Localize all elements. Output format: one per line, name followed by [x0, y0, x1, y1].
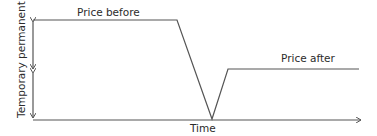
time-axis-label: Time [189, 122, 216, 134]
price-change-diagram: Price before Price after Time Temporary … [0, 0, 377, 136]
price-after-label: Price after [281, 52, 335, 64]
price-line [33, 20, 359, 119]
price-before-label: Price before [77, 6, 140, 18]
y-axis-label: Temporary permanent [15, 1, 27, 119]
diagram-canvas: Price before Price after Time Temporary … [0, 0, 377, 136]
